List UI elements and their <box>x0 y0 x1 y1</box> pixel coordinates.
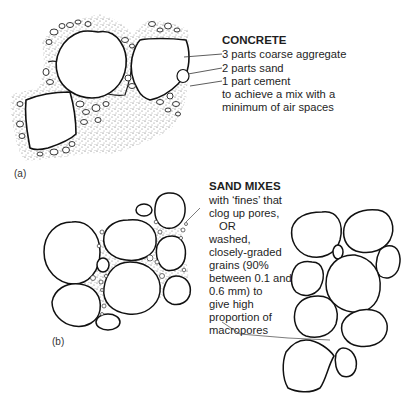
sand-line-11: macropores <box>209 324 268 337</box>
coarse-aggregate-round <box>56 31 126 98</box>
sand-line-5: closely-graded <box>209 246 282 259</box>
sand-grain-large-left <box>44 222 100 284</box>
sand-grain <box>177 70 189 83</box>
sand-line-2: clog up pores, <box>209 207 279 220</box>
concrete-item-aggregate: 3 parts coarse aggregate <box>222 48 346 61</box>
sand-line-6: grains (90% <box>209 259 269 272</box>
panel-a-label: (a) <box>14 168 26 179</box>
sand-with-fines-diagram <box>44 193 200 330</box>
sand-line-10: proportion of <box>209 311 272 324</box>
sand-grain-small-top <box>136 204 152 216</box>
grain-r9 <box>335 348 356 377</box>
grain-r8 <box>283 340 334 392</box>
panel-b-label: (b) <box>52 336 64 347</box>
concrete-item-sand: 2 parts sand <box>222 62 284 75</box>
concrete-diagram <box>11 14 222 161</box>
sand-line-or: OR <box>219 220 236 233</box>
sand-grain-right-low <box>163 276 190 305</box>
sand-line-9: give high <box>209 298 254 311</box>
sand-grain-bottom-small <box>96 314 120 330</box>
concrete-note-line-2: minimum of air spaces <box>222 101 334 114</box>
fines-leader-line <box>186 208 200 222</box>
sand-grain-top-mid <box>104 220 157 261</box>
sand-grain-right-mid <box>156 236 185 271</box>
concrete-item-cement: 1 part cement <box>222 75 290 88</box>
grain-r3 <box>376 246 400 278</box>
grain-r6 <box>294 296 337 337</box>
sand-line-4: washed, <box>209 233 251 246</box>
sand-grain-bottom-left <box>52 284 100 327</box>
sand-line-7: between 0.1 and <box>209 272 292 285</box>
grain-r7 <box>342 310 388 347</box>
sand-line-1: with ‘fines’ that <box>209 194 282 207</box>
sand-grain-center-large <box>104 262 160 314</box>
concrete-title: CONCRETE <box>222 34 287 47</box>
washed-sand-diagram <box>283 210 400 392</box>
sand-mixes-title: SAND MIXES <box>209 180 281 193</box>
grain-r4 <box>292 262 324 296</box>
concrete-note-line-1: to achieve a mix with a <box>222 88 335 101</box>
sand-line-8: 0.6 mm) to <box>209 285 262 298</box>
sand-grain-top-right <box>155 193 185 228</box>
